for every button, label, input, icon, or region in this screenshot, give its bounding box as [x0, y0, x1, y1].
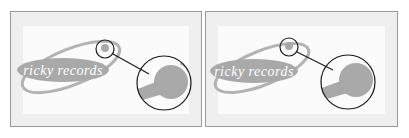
magnified-orbit	[135, 80, 163, 102]
logo-text: ricky records	[23, 63, 103, 78]
logo-panel-left: ricky records	[10, 11, 202, 127]
logo-text: ricky records	[214, 64, 294, 79]
ricky-records-logo: ricky records	[206, 12, 399, 128]
logo-panel-right: ricky records	[205, 11, 398, 127]
magnified-orbit	[319, 79, 348, 101]
planet-dot	[285, 42, 293, 50]
ricky-records-logo: ricky records	[11, 12, 203, 128]
connector-line	[113, 54, 149, 74]
planet-dot	[101, 44, 109, 52]
